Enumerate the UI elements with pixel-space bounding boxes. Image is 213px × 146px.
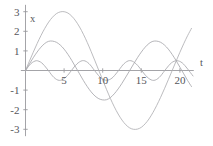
chart-plot-area: 5101520-3-2-1123 x t bbox=[0, 0, 213, 146]
y-tick-label: 3 bbox=[14, 6, 20, 18]
y-tick-label: 1 bbox=[14, 45, 20, 57]
x-tick-label: 5 bbox=[61, 74, 67, 86]
y-tick-label: -3 bbox=[10, 123, 20, 135]
x-axis-label: t bbox=[200, 57, 203, 68]
y-tick-label: -1 bbox=[10, 84, 19, 96]
x-tick-label: 10 bbox=[97, 74, 109, 86]
x-tick-label: 15 bbox=[136, 74, 148, 86]
x-tick-label: 20 bbox=[174, 74, 186, 86]
y-tick-label: -2 bbox=[10, 104, 19, 116]
y-axis-label: x bbox=[30, 13, 36, 24]
chart-container: 5101520-3-2-1123 x t bbox=[0, 0, 213, 146]
y-tick-label: 2 bbox=[14, 25, 20, 37]
